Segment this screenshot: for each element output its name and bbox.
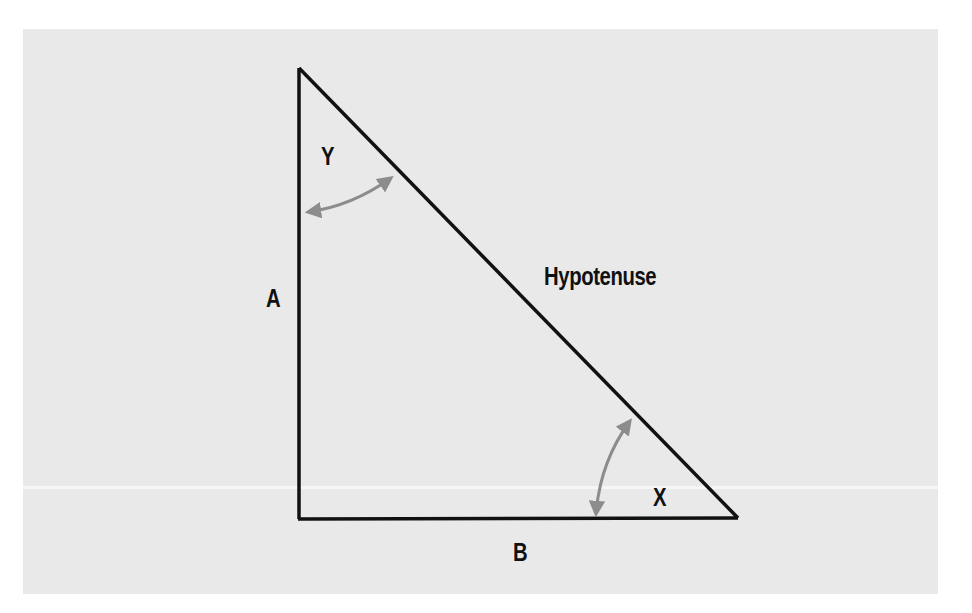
angle-y-arrow: [308, 178, 391, 212]
angle-x-label: X: [653, 482, 666, 513]
angle-x-arrow: [596, 421, 630, 514]
right-triangle-figure: [0, 0, 972, 613]
hypotenuse-line: [299, 68, 738, 518]
hypotenuse-label: Hypotenuse: [544, 261, 656, 292]
angle-y-label: Y: [321, 141, 334, 172]
side-b-label: B: [513, 537, 527, 568]
side-a-label: A: [266, 283, 280, 314]
triangle: [298, 68, 738, 519]
side-b-line: [298, 518, 738, 519]
diagram-stage: Y X A B Hypotenuse: [0, 0, 972, 613]
